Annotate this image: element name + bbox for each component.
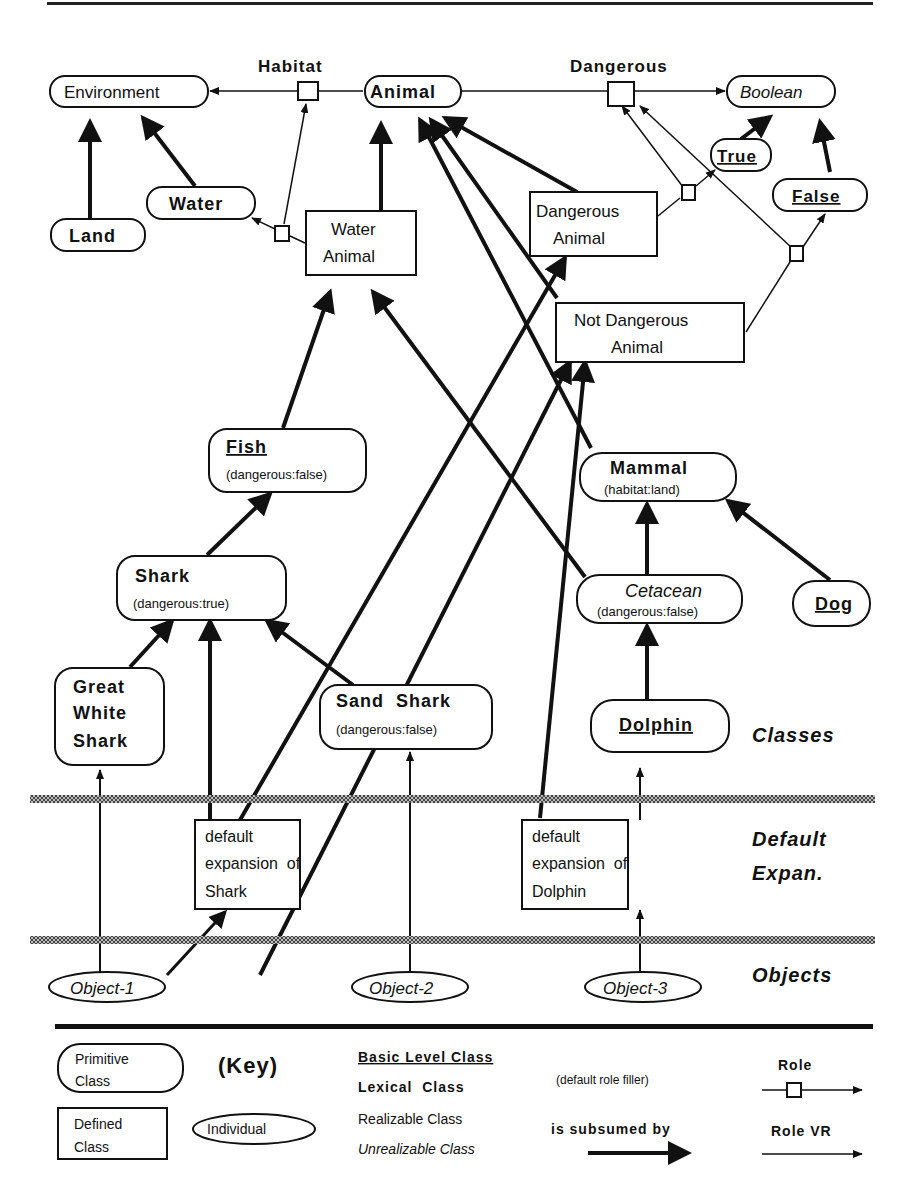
layer-classes-label: Classes bbox=[752, 724, 835, 746]
node-default-expansion-shark: default expansion of Shark bbox=[195, 820, 301, 909]
gws-line3: Shark bbox=[73, 731, 128, 751]
key-defined-class: Defined Class bbox=[58, 1108, 167, 1159]
key-realizable: Realizable Class bbox=[358, 1111, 462, 1127]
node-dangerous-animal: Dangerous Animal bbox=[530, 192, 657, 256]
node-environment: Environment bbox=[50, 76, 208, 107]
node-animal: Animal bbox=[365, 76, 461, 107]
cetacean-default: (dangerous:false) bbox=[597, 604, 698, 619]
key-role-vr-label: Role VR bbox=[771, 1123, 832, 1139]
dexp-shark-line2: expansion of bbox=[205, 855, 301, 872]
role-box-water bbox=[275, 226, 289, 241]
key-role-label: Role bbox=[778, 1057, 812, 1073]
top-rule bbox=[47, 2, 873, 5]
shark-default: (dangerous:true) bbox=[133, 596, 229, 611]
water-animal-line2: Animal bbox=[323, 247, 375, 266]
boolean-label: Boolean bbox=[740, 83, 802, 102]
node-dolphin: Dolphin bbox=[591, 700, 729, 752]
taxonomy-diagram: Habitat Dangerous Environment Animal Boo… bbox=[0, 0, 920, 1204]
key-legend: Primitive Class (Key) Defined Class Indi… bbox=[58, 1044, 862, 1159]
node-land: Land bbox=[51, 219, 145, 251]
role-box-false bbox=[790, 246, 803, 261]
dexp-shark-line1: default bbox=[205, 828, 254, 845]
node-object-1: Object-1 bbox=[49, 972, 165, 1002]
key-default-filler: (default role filler) bbox=[556, 1073, 649, 1087]
sand-shark-default: (dangerous:false) bbox=[336, 722, 437, 737]
key-basic-level: Basic Level Class bbox=[358, 1049, 493, 1065]
node-water-animal: Water Animal bbox=[306, 211, 416, 275]
key-individual: Individual bbox=[193, 1114, 315, 1144]
sand-shark-label: Sand Shark bbox=[336, 691, 451, 711]
not-dangerous-animal-line2: Animal bbox=[611, 338, 663, 357]
layer-divider-1 bbox=[30, 795, 875, 803]
not-dangerous-animal-line1: Not Dangerous bbox=[574, 311, 688, 330]
cetacean-label: Cetacean bbox=[625, 581, 702, 601]
layer-objects-label: Objects bbox=[752, 964, 832, 986]
dexp-dolphin-line2: expansion of bbox=[532, 855, 628, 872]
land-label: Land bbox=[69, 226, 116, 246]
node-dog: Dog bbox=[793, 581, 870, 626]
role-box-true bbox=[682, 185, 695, 200]
role-edges bbox=[210, 91, 825, 332]
fish-default: (dangerous:false) bbox=[226, 467, 327, 482]
environment-label: Environment bbox=[64, 83, 160, 102]
key-unrealizable: Unrealizable Class bbox=[358, 1141, 475, 1157]
animal-label: Animal bbox=[370, 82, 436, 102]
node-object-2: Object-2 bbox=[352, 972, 468, 1002]
shark-label: Shark bbox=[135, 566, 190, 586]
node-shark: Shark (dangerous:true) bbox=[117, 556, 286, 620]
node-not-dangerous-animal: Not Dangerous Animal bbox=[556, 303, 744, 362]
node-false: False bbox=[773, 179, 867, 211]
false-label: False bbox=[792, 187, 840, 206]
node-mammal: Mammal (habitat:land) bbox=[580, 453, 736, 501]
object2-label: Object-2 bbox=[369, 979, 434, 998]
true-label: True bbox=[717, 147, 757, 166]
svg-text:Individual: Individual bbox=[207, 1121, 266, 1137]
object3-label: Object-3 bbox=[603, 979, 668, 998]
mammal-default: (habitat:land) bbox=[604, 482, 680, 497]
water-animal-line1: Water bbox=[331, 220, 376, 239]
key-role-arrow bbox=[762, 1083, 862, 1097]
dog-label: Dog bbox=[815, 594, 853, 614]
dangerous-animal-line2: Animal bbox=[553, 229, 605, 248]
layer-divider-2 bbox=[30, 936, 875, 944]
node-sand-shark: Sand Shark (dangerous:false) bbox=[320, 685, 492, 749]
dolphin-label: Dolphin bbox=[619, 715, 693, 735]
node-great-white-shark: Great White Shark bbox=[55, 668, 164, 765]
role-dangerous-box bbox=[608, 82, 634, 106]
node-boolean: Boolean bbox=[727, 76, 835, 107]
svg-text:Defined: Defined bbox=[74, 1116, 122, 1132]
gws-line1: Great bbox=[73, 677, 125, 697]
svg-text:Primitive: Primitive bbox=[75, 1051, 129, 1067]
svg-text:Class: Class bbox=[75, 1073, 110, 1089]
layer-default-label-1: Default bbox=[752, 828, 827, 850]
object1-label: Object-1 bbox=[70, 979, 134, 998]
key-divider bbox=[55, 1024, 873, 1029]
svg-text:Class: Class bbox=[74, 1139, 109, 1155]
dexp-shark-line3: Shark bbox=[205, 883, 248, 900]
key-primitive-class: Primitive Class bbox=[58, 1044, 183, 1092]
node-fish: Fish (dangerous:false) bbox=[209, 429, 366, 492]
key-subsumed-label: is subsumed by bbox=[551, 1121, 671, 1137]
role-dangerous-label: Dangerous bbox=[570, 57, 668, 76]
role-habitat-label: Habitat bbox=[258, 57, 323, 76]
node-default-expansion-dolphin: default expansion of Dolphin bbox=[522, 820, 628, 909]
key-lexical: Lexical Class bbox=[358, 1079, 465, 1095]
node-cetacean: Cetacean (dangerous:false) bbox=[577, 575, 742, 623]
key-title: (Key) bbox=[218, 1053, 278, 1078]
water-label: Water bbox=[169, 194, 223, 214]
layer-default-label-2: Expan. bbox=[752, 862, 824, 884]
node-object-3: Object-3 bbox=[585, 972, 701, 1002]
node-water: Water bbox=[147, 187, 255, 219]
dexp-dolphin-line1: default bbox=[532, 828, 581, 845]
role-habitat-box bbox=[298, 82, 318, 100]
mammal-label: Mammal bbox=[610, 458, 688, 478]
dangerous-animal-line1: Dangerous bbox=[536, 202, 619, 221]
node-true: True bbox=[711, 139, 771, 171]
gws-line2: White bbox=[73, 703, 127, 723]
dexp-dolphin-line3: Dolphin bbox=[532, 883, 586, 900]
fish-label: Fish bbox=[226, 437, 267, 457]
